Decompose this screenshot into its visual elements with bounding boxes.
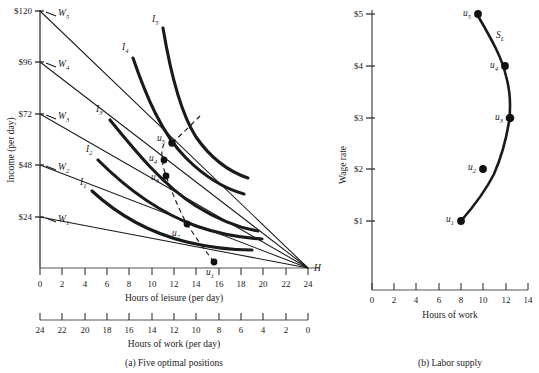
svg-text:18: 18 <box>237 279 247 289</box>
optimal-point-u1 <box>211 259 218 266</box>
panel-a-x-ticks-leisure <box>40 268 308 275</box>
svg-text:24: 24 <box>304 279 314 289</box>
svg-text:$5: $5 <box>354 9 364 19</box>
svg-text:8: 8 <box>127 279 132 289</box>
figure-container: $24 $48 $72 $96 $120 Income (per day) W1… <box>0 0 539 373</box>
optimal-label-u2: u2 <box>172 228 181 240</box>
svg-text:6: 6 <box>105 279 110 289</box>
indifference-curve-i1 <box>92 191 252 250</box>
svg-text:2: 2 <box>60 279 65 289</box>
optimal-point-u2 <box>184 221 191 228</box>
indifference-label-i5: I5 <box>151 14 159 26</box>
supply-point-u5 <box>474 10 482 18</box>
svg-text:4: 4 <box>414 295 419 305</box>
budget-label-w1: W1 <box>58 214 69 226</box>
supply-point-u3 <box>506 114 515 123</box>
panel-b-xtick-labels: 0 2 4 6 8 10 12 14 <box>370 295 533 305</box>
supply-label-u3: u3 <box>495 112 504 124</box>
indifference-label-i4: I4 <box>121 42 129 54</box>
svg-text:22: 22 <box>58 325 67 335</box>
optimal-point-u3 <box>163 173 170 180</box>
budget-label-w3: W3 <box>58 111 70 123</box>
supply-points <box>457 10 514 225</box>
svg-text:8: 8 <box>217 325 222 335</box>
svg-text:8: 8 <box>459 295 464 305</box>
supply-point-u1 <box>457 217 465 225</box>
panel-a-caption: (a) Five optimal positions <box>125 358 223 369</box>
labor-supply-figure: $24 $48 $72 $96 $120 Income (per day) W1… <box>0 0 539 373</box>
svg-text:$2: $2 <box>354 164 363 174</box>
svg-text:12: 12 <box>502 295 511 305</box>
svg-text:12: 12 <box>170 325 179 335</box>
svg-text:20: 20 <box>259 279 269 289</box>
optimal-label-u1: u1 <box>206 267 214 279</box>
svg-text:0: 0 <box>370 295 375 305</box>
supply-point-u2 <box>479 165 487 173</box>
svg-text:10: 10 <box>192 325 202 335</box>
panel-b-y-axis-title: Wage rate <box>338 146 348 184</box>
endpoint-label-h: H <box>313 263 322 273</box>
optimal-point-u5 <box>168 139 175 146</box>
panel-b-y-ticks <box>366 14 375 221</box>
panel-a-x-axis-title-leisure: Hours of leisure (per day) <box>125 293 223 304</box>
svg-text:0: 0 <box>306 325 311 335</box>
supply-label-u4: u4 <box>490 60 499 72</box>
optimal-label-u4: u4 <box>149 153 158 165</box>
panel-a-ytick-120: $120 <box>14 6 33 16</box>
panel-a-y-axis-title: Income (per day) <box>6 117 17 182</box>
optimal-point-u4 <box>161 157 168 164</box>
panel-a-xtick-labels-leisure: 0 2 4 6 8 10 12 14 16 18 20 22 24 <box>38 279 313 289</box>
optimal-label-u5: u5 <box>157 133 166 145</box>
indifference-label-i2: I2 <box>85 144 93 156</box>
indifference-label-i1: I1 <box>79 177 86 189</box>
budget-line-w1 <box>40 217 308 268</box>
indifference-curve-i3 <box>110 120 258 231</box>
budget-label-w4: W4 <box>58 59 70 71</box>
supply-point-u4 <box>501 62 509 70</box>
svg-text:14: 14 <box>524 295 534 305</box>
budget-label-w5: W5 <box>58 8 70 20</box>
svg-text:14: 14 <box>148 325 158 335</box>
svg-text:$3: $3 <box>354 113 364 123</box>
panel-b: $1 $2 $3 $4 $5 Wage rate u1 u2 u3 u4 u5 … <box>338 8 533 369</box>
svg-text:18: 18 <box>103 325 113 335</box>
panel-a-x-ticks-work <box>40 313 308 320</box>
svg-text:6: 6 <box>239 325 244 335</box>
svg-text:22: 22 <box>282 279 291 289</box>
svg-text:24: 24 <box>36 325 46 335</box>
indifference-curves <box>92 28 262 250</box>
panel-b-x-ticks <box>372 283 528 290</box>
svg-text:$4: $4 <box>354 61 364 71</box>
svg-text:$1: $1 <box>354 216 363 226</box>
panel-b-caption: (b) Labor supply <box>418 358 482 369</box>
supply-point-labels: u1 u2 u3 u4 u5 <box>446 8 504 226</box>
panel-a-x-axis-title-work: Hours of work (per day) <box>128 339 220 350</box>
svg-text:16: 16 <box>215 279 225 289</box>
panel-b-x-axis-title: Hours of work <box>422 310 478 320</box>
svg-text:0: 0 <box>38 279 43 289</box>
indifference-label-i3: I3 <box>95 104 103 116</box>
svg-text:6: 6 <box>437 295 442 305</box>
budget-leader-marks <box>46 12 56 222</box>
panel-b-ytick-labels: $1 $2 $3 $4 $5 <box>354 9 364 226</box>
indifference-curve-i5 <box>163 28 248 178</box>
supply-curve-label: SL <box>496 30 505 42</box>
budget-label-w2: W2 <box>58 162 70 174</box>
supply-label-u1: u1 <box>446 214 454 226</box>
svg-text:14: 14 <box>192 279 202 289</box>
panel-a: $24 $48 $72 $96 $120 Income (per day) W1… <box>6 6 322 369</box>
supply-label-u5: u5 <box>463 8 472 20</box>
panel-a-ytick-48: $48 <box>19 160 33 170</box>
svg-text:2: 2 <box>284 325 289 335</box>
panel-a-ytick-96: $96 <box>19 57 33 67</box>
panel-a-ytick-72: $72 <box>19 109 33 119</box>
panel-a-ytick-24: $24 <box>19 212 33 222</box>
supply-label-u2: u2 <box>468 162 477 174</box>
svg-text:12: 12 <box>170 279 179 289</box>
svg-text:20: 20 <box>81 325 91 335</box>
svg-text:10: 10 <box>479 295 489 305</box>
budget-line-labels: W1 W2 W3 W4 W5 <box>58 8 70 226</box>
svg-text:2: 2 <box>392 295 397 305</box>
svg-text:10: 10 <box>148 279 158 289</box>
svg-text:4: 4 <box>83 279 88 289</box>
